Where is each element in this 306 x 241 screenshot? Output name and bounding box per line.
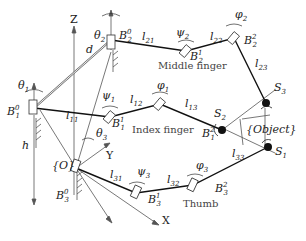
psi2-label: ψ2: [176, 27, 189, 38]
theta2-label: θ2: [94, 30, 105, 41]
phi3-label: φ3: [196, 160, 208, 171]
b2-2-label: B22: [244, 35, 257, 46]
theta3-label: θ3: [96, 128, 107, 139]
l31-label: l31: [110, 169, 122, 180]
origin-label: {O}: [52, 160, 75, 171]
h-label: h: [22, 140, 29, 151]
b1-1-label: B11: [112, 118, 125, 129]
index-finger-label: Index finger: [132, 124, 194, 135]
phi1-label: φ1: [157, 80, 169, 91]
thumb-label: Thumb: [183, 198, 218, 209]
phi2-label: φ2: [235, 9, 247, 20]
b3-1-label: B13: [148, 194, 161, 205]
d-label: d: [86, 44, 93, 55]
l12-label: l12: [130, 94, 142, 105]
psi1-label: ψ1: [102, 90, 115, 101]
b3-2-label: B23: [215, 183, 228, 194]
l11-label: l11: [66, 110, 78, 121]
l22-label: l22: [210, 31, 222, 42]
l32-label: l32: [167, 174, 179, 185]
y-axis-label: Y: [106, 150, 113, 161]
s1-label: S1: [275, 146, 287, 157]
x-axis-label: X: [162, 215, 170, 226]
hand-kinematics-diagram: Z d h θ1 θ2 θ3 B01 B02 B03 B11 B12 B13 B…: [0, 0, 306, 241]
l23-label: l23: [255, 58, 267, 69]
object-label: {Object}: [246, 124, 297, 135]
l21-label: l21: [142, 31, 154, 42]
b1-2-label: B21: [202, 128, 215, 139]
middle-finger-label: Middle finger: [158, 60, 227, 71]
b3-0-label: B03: [56, 190, 69, 201]
theta1-label: θ1: [18, 80, 29, 91]
s2-label: S2: [214, 108, 226, 119]
s3-label: S3: [274, 82, 286, 93]
z-axis-label: Z: [70, 14, 78, 25]
b1-0-label: B01: [7, 106, 20, 117]
psi3-label: ψ3: [137, 166, 150, 177]
l33-label: l33: [232, 148, 244, 159]
l13-label: l13: [185, 98, 197, 109]
b2-0-label: B02: [119, 30, 132, 41]
